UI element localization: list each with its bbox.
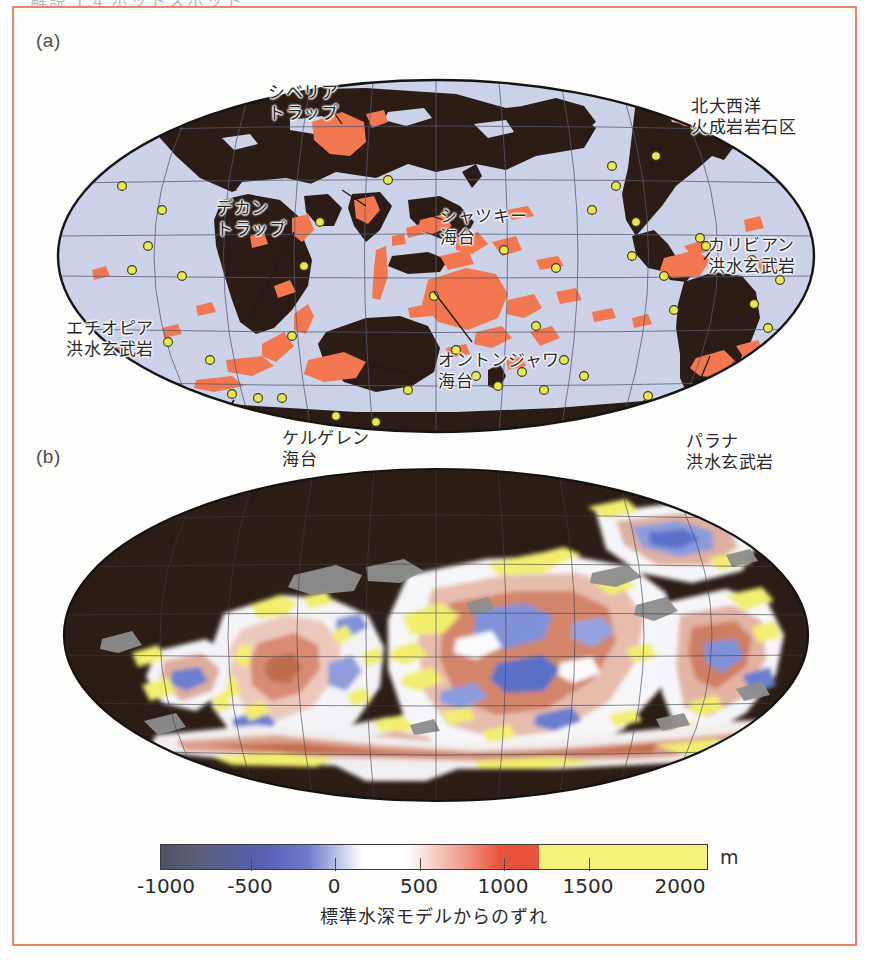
colorbar-unit-label: m	[720, 846, 739, 868]
label-caribbean-flood-basalt: カリビアン洪水玄武岩	[708, 235, 796, 277]
colorbar-caption: 標準水深モデルからのずれ	[320, 902, 548, 928]
map-b-svg	[36, 463, 836, 818]
label-siberian-traps: シベリアトラップ	[268, 82, 338, 124]
colorbar-label-0: 0	[328, 874, 341, 898]
map-a-large-igneous-provinces: シベリアトラップ 北大西洋火成岩岩石区 デカントラップ シャツキー海台 カリビア…	[36, 60, 836, 450]
colorbar-tick-1	[335, 858, 336, 871]
label-shatsky-rise: シャツキー海台	[440, 206, 528, 248]
colorbar-legend: m -1000 -500 0 500 1000 1500 2000 標準水深モデ…	[160, 844, 735, 944]
colorbar-tick-3	[504, 858, 505, 871]
colorbar-label-500: 500	[400, 874, 438, 898]
label-ontong-java-plateau: オントンジャワ海台	[438, 350, 560, 392]
colorbar-label-1500: 1500	[563, 874, 614, 898]
colorbar-label-1000: 1000	[478, 874, 529, 898]
colorbar-tick-0	[251, 858, 252, 871]
colorbar-label-2000: 2000	[655, 874, 706, 898]
map-b-depth-anomaly	[36, 463, 836, 818]
colorbar-label--500: -500	[227, 874, 272, 898]
label-north-atlantic-lip: 北大西洋火成岩岩石区	[691, 96, 796, 138]
colorbar-gradient-continuous	[161, 845, 539, 869]
label-ethiopian-flood-basalt: エチオピア洪水玄武岩	[66, 318, 154, 360]
colorbar-gradient	[160, 844, 708, 870]
map-b-content	[36, 463, 836, 818]
panel-a-letter: (a)	[36, 30, 61, 52]
figure-frame: (a)	[12, 6, 857, 946]
colorbar-tick-4	[589, 858, 590, 871]
label-deccan-traps: デカントラップ	[216, 198, 286, 240]
colorbar-tick-2	[420, 858, 421, 871]
colorbar-saturation-block	[539, 845, 707, 869]
colorbar-label--1000: -1000	[137, 874, 195, 898]
